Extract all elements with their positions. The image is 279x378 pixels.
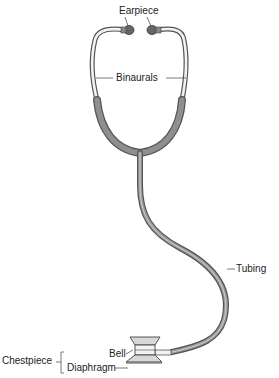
diaphragm-label: Diaphragm: [67, 362, 116, 373]
bell: [130, 337, 160, 345]
stethoscope-diagram: Earpiece Binaurals Tubing Bell Diaphragm…: [0, 0, 279, 378]
tubing-label: Tubing: [236, 263, 266, 274]
chestpiece-stem: [155, 350, 171, 355]
y-tubing: [97, 100, 182, 153]
chestpiece-label: Chestpiece: [2, 355, 52, 366]
label-binaurals: Binaurals: [96, 72, 186, 83]
earpiece-right: [147, 26, 157, 35]
binaurals: [92, 29, 186, 100]
label-bell: Bell: [109, 348, 133, 359]
binaurals-label: Binaurals: [116, 72, 158, 83]
label-diaphragm: Diaphragm: [67, 362, 128, 373]
label-earpiece: Earpiece: [119, 5, 159, 26]
diaphragm: [126, 355, 162, 362]
earpiece-label: Earpiece: [119, 5, 159, 16]
earpieces: [121, 26, 161, 35]
label-tubing: Tubing: [227, 263, 266, 274]
label-chestpiece: Chestpiece: [2, 352, 64, 373]
binaural-left: [92, 29, 125, 100]
bell-label: Bell: [109, 348, 126, 359]
tubing: [140, 153, 226, 352]
binaural-right: [157, 29, 186, 100]
chestpiece-bracket: [56, 352, 64, 373]
